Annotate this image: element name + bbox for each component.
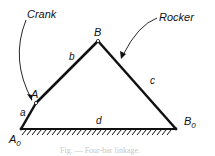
crank-label: Crank	[27, 8, 57, 20]
ground-link-d	[20, 129, 176, 135]
joint-b-label: B	[94, 26, 101, 38]
link-c-label: c	[150, 75, 155, 86]
joint-a-label: A	[30, 88, 38, 100]
link-d-label: d	[96, 115, 102, 126]
pivot-b0-label: B0	[184, 115, 196, 130]
figure-caption: Fig. — Four-bar linkage.	[60, 146, 140, 155]
rocker-pointer-arrow	[120, 18, 157, 59]
pivot-a0-label: A0	[8, 133, 21, 148]
link-a-label: a	[20, 107, 26, 118]
rocker-label: Rocker	[159, 11, 195, 23]
coupler-link-b	[36, 41, 98, 103]
link-b-label: b	[69, 51, 75, 62]
joint-a	[34, 101, 37, 104]
pivot-b0	[175, 128, 178, 131]
four-bar-linkage-diagram: Crank Rocker B b c A a d A0 B0 Fig. — Fo…	[0, 0, 215, 156]
pivot-a0	[20, 128, 23, 131]
joint-b	[96, 39, 99, 42]
rocker-link-c	[98, 41, 176, 129]
